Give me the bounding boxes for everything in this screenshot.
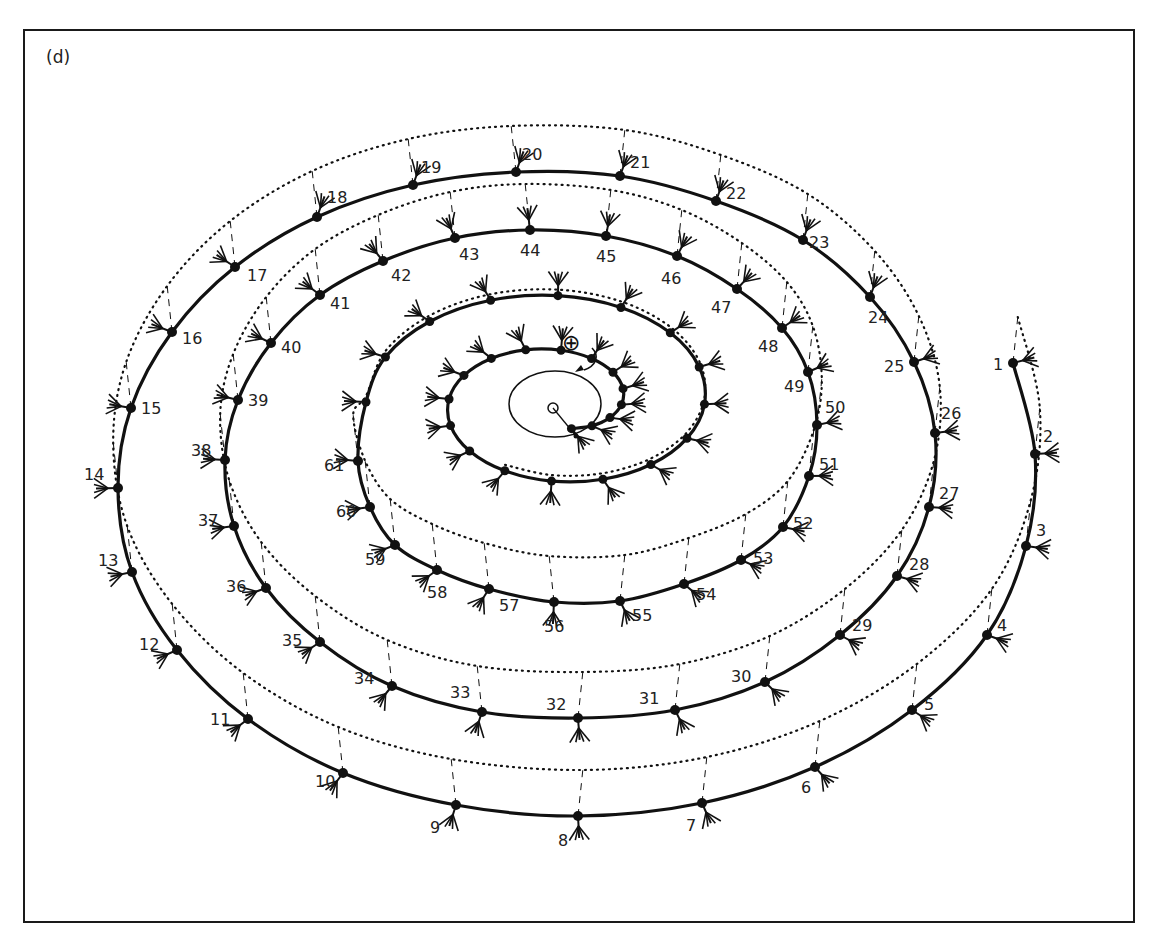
station-label: 4	[997, 616, 1007, 635]
station-node	[909, 357, 919, 367]
drop-line	[684, 538, 689, 584]
station-node	[777, 323, 787, 333]
station-label: 55	[632, 606, 652, 625]
station-node	[484, 584, 494, 594]
inner-node	[646, 460, 655, 469]
drop-line	[233, 354, 238, 400]
station-node	[229, 521, 239, 531]
inner-node	[553, 291, 562, 300]
station-label: 53	[753, 549, 773, 568]
drop-line	[167, 286, 172, 332]
station-label: 25	[884, 357, 904, 376]
station-node	[525, 225, 535, 235]
inner-node	[682, 434, 691, 443]
station-label: 40	[281, 338, 301, 357]
station-node	[798, 235, 808, 245]
station-node	[233, 395, 243, 405]
station-node	[907, 705, 917, 715]
station-label: 57	[499, 596, 519, 615]
station-label: 50	[825, 398, 845, 417]
drop-line	[737, 243, 742, 289]
drop-line	[126, 362, 131, 408]
drop-line	[315, 596, 320, 642]
station-node	[892, 571, 902, 581]
station-node	[243, 714, 253, 724]
station-node	[732, 284, 742, 294]
station-node	[378, 256, 388, 266]
inner-node	[446, 421, 455, 430]
arrow-head-icon	[575, 365, 584, 372]
station-label: 43	[459, 245, 479, 264]
station-label: 7	[686, 816, 696, 835]
drop-line	[378, 215, 383, 261]
inner-node	[567, 424, 576, 433]
station-node	[167, 327, 177, 337]
drop-line	[815, 721, 820, 767]
inner-node	[609, 368, 618, 377]
station-label: 2	[1043, 427, 1053, 446]
station-node	[338, 768, 348, 778]
inner-node	[547, 477, 556, 486]
inner-node	[500, 466, 509, 475]
station-node	[408, 180, 418, 190]
station-node	[390, 540, 400, 550]
station-node	[315, 290, 325, 300]
station-node	[549, 597, 559, 607]
station-node	[672, 251, 682, 261]
station-label: 18	[327, 188, 347, 207]
station-label: 16	[182, 329, 202, 348]
station-node	[930, 428, 940, 438]
station-node	[172, 645, 182, 655]
spiral-diagram: 1234567891011121314151617181920212223242…	[0, 0, 1153, 947]
station-label: 56	[544, 617, 564, 636]
station-node	[220, 455, 230, 465]
drop-line	[390, 499, 395, 545]
inner-node	[486, 296, 495, 305]
drop-line	[451, 759, 456, 805]
station-label: 12	[139, 635, 159, 654]
station-label: 11	[210, 710, 230, 729]
station-node	[679, 579, 689, 589]
station-label: 32	[546, 695, 566, 714]
drop-line	[741, 514, 746, 560]
inner-node	[465, 446, 474, 455]
drop-line	[338, 727, 343, 773]
drop-line	[432, 524, 437, 570]
station-label: 13	[98, 551, 118, 570]
station-node	[778, 522, 788, 532]
station-label: 37	[198, 511, 218, 530]
station-node	[812, 420, 822, 430]
drop-line	[912, 664, 917, 710]
inner-node	[445, 394, 454, 403]
station-node	[615, 596, 625, 606]
station-label: 39	[248, 391, 268, 410]
plant-tuft-icon	[444, 442, 474, 470]
drop-line	[484, 543, 489, 589]
station-node	[511, 167, 521, 177]
station-label: 22	[726, 184, 746, 203]
station-node	[365, 502, 375, 512]
station-node	[432, 565, 442, 575]
inner-node	[381, 353, 390, 362]
drop-line	[620, 555, 625, 601]
station-label: 33	[450, 683, 470, 702]
station-node	[810, 762, 820, 772]
drop-line	[914, 316, 919, 362]
station-node	[387, 681, 397, 691]
dashed-drop-lines	[113, 126, 1040, 816]
station-label: 5	[924, 695, 934, 714]
station-label: 19	[421, 158, 441, 177]
inner-node	[619, 384, 628, 393]
station-label: 17	[247, 266, 267, 285]
station-node	[450, 233, 460, 243]
station-node	[1030, 449, 1040, 459]
station-node	[711, 196, 721, 206]
drop-line	[315, 249, 320, 295]
inner-node	[362, 398, 371, 407]
station-node	[736, 555, 746, 565]
inner-node	[425, 317, 434, 326]
station-node	[312, 212, 322, 222]
inner-node	[617, 400, 626, 409]
station-node	[261, 583, 271, 593]
station-node	[865, 292, 875, 302]
